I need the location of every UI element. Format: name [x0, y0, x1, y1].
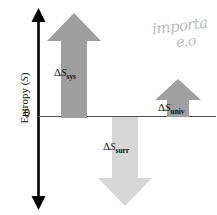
arrow-delta-s-surr — [97, 117, 153, 207]
arrow-label-delta-s-surr: ΔSsurr — [103, 141, 129, 155]
arrow-label-delta-s-sys: ΔSsys — [54, 67, 76, 81]
y-axis — [30, 8, 47, 210]
arrow-delta-s-sys — [46, 12, 102, 118]
y-axis-title: Entropy (S) — [18, 43, 30, 153]
arrow-label-delta-s-univ: ΔSuniv — [158, 102, 184, 116]
entropy-arrow-diagram: 0 Entropy (S) ΔSsys ΔSsurr ΔSuniv import… — [0, 0, 217, 215]
handwritten-annotation-line-2: e.o — [175, 32, 196, 50]
